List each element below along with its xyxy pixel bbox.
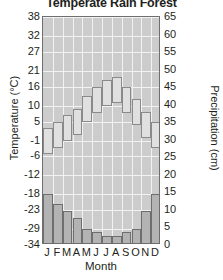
temperature-step-bar — [92, 87, 102, 113]
left-axis-tick-label: -29 — [10, 223, 40, 234]
temperature-step-bar — [73, 109, 83, 135]
right-axis-tick-label: 25 — [164, 151, 194, 162]
right-axis-tick-label: 35 — [164, 116, 194, 127]
temperature-step-bar — [151, 122, 160, 148]
left-axis-title: Temperature (°C) — [8, 48, 20, 188]
left-axis-tick-label: -18 — [10, 188, 40, 199]
right-axis-tick-label: 65 — [164, 11, 194, 22]
month-tick-label: D — [148, 246, 162, 258]
right-axis-tick-label: 20 — [164, 169, 194, 180]
right-axis-tick-label: 0 — [164, 239, 194, 250]
climograph-chart: Temperate Rain Forest 3832272116105-1-6-… — [0, 0, 223, 280]
temperature-step-bar — [63, 115, 73, 141]
bottom-axis-title: Month — [42, 260, 160, 272]
temperature-step-bar — [82, 96, 92, 122]
temperature-step-bar — [112, 77, 122, 103]
right-axis-tick-label: 10 — [164, 204, 194, 215]
right-axis-tick-label: 40 — [164, 99, 194, 110]
right-axis-tick-label: 45 — [164, 81, 194, 92]
left-axis-tick-label: 32 — [10, 30, 40, 41]
chart-title: Temperate Rain Forest — [0, 0, 223, 10]
left-axis-tick-label: -23 — [10, 204, 40, 215]
right-axis-tick-label: 30 — [164, 134, 194, 145]
temperature-step-bar — [132, 99, 142, 125]
temperature-step-bar — [102, 80, 112, 106]
temperature-step-bar — [53, 122, 63, 148]
temperature-step-bar — [122, 87, 132, 113]
left-axis-tick-label: 38 — [10, 11, 40, 22]
right-axis-title: Precipitation (cm) — [209, 53, 221, 203]
right-axis-tick-label: 50 — [164, 64, 194, 75]
temperature-step-bar — [43, 128, 53, 154]
right-axis-tick-label: 55 — [164, 46, 194, 57]
plot-area — [42, 16, 160, 244]
left-axis-tick-label: -34 — [10, 239, 40, 250]
right-axis-tick-label: 5 — [164, 221, 194, 232]
temperature-step-bar — [141, 112, 151, 138]
temperature-series — [43, 17, 159, 243]
right-axis-tick-label: 15 — [164, 186, 194, 197]
right-axis-tick-label: 60 — [164, 29, 194, 40]
